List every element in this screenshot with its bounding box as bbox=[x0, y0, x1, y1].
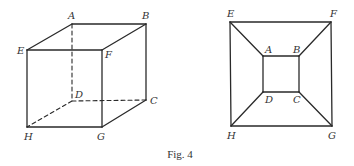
figure-caption: Fig. 4 bbox=[167, 148, 193, 160]
edge-FG bbox=[331, 22, 332, 126]
vertex-label-F: F bbox=[329, 8, 338, 19]
edge-HE bbox=[230, 22, 231, 126]
vertex-label-H: H bbox=[226, 130, 236, 141]
vertex-label-C: C bbox=[293, 94, 301, 105]
figure-4-cube-diagram: A B C D E F G H E F G H A B C D Fig. 4 bbox=[0, 0, 354, 166]
edge-EA bbox=[230, 22, 263, 56]
vertex-label-A: A bbox=[264, 44, 272, 55]
vertex-label-D: D bbox=[74, 89, 83, 100]
vertex-label-G: G bbox=[97, 131, 105, 142]
hidden-edge-DC bbox=[72, 100, 146, 101]
vertex-label-B: B bbox=[141, 10, 149, 21]
vertex-label-A: A bbox=[67, 10, 75, 21]
vertex-label-E: E bbox=[226, 8, 235, 19]
perspective-cube: A B C D E F G H bbox=[16, 10, 158, 142]
planar-cube-graph: E F G H A B C D bbox=[226, 8, 338, 141]
edge-GC bbox=[299, 92, 332, 126]
edge-AE bbox=[27, 24, 72, 50]
vertex-label-B: B bbox=[292, 44, 300, 55]
vertex-label-H: H bbox=[23, 131, 33, 142]
vertex-label-G: G bbox=[328, 130, 336, 141]
vertex-label-C: C bbox=[150, 95, 158, 106]
edge-FB bbox=[299, 22, 331, 56]
edge-BF bbox=[102, 24, 146, 50]
vertex-label-E: E bbox=[16, 45, 25, 56]
vertex-label-D: D bbox=[264, 94, 273, 105]
edge-HD bbox=[231, 92, 263, 126]
vertex-label-F: F bbox=[104, 49, 113, 60]
hidden-edge-DH bbox=[27, 101, 72, 127]
edge-CG bbox=[102, 100, 146, 127]
